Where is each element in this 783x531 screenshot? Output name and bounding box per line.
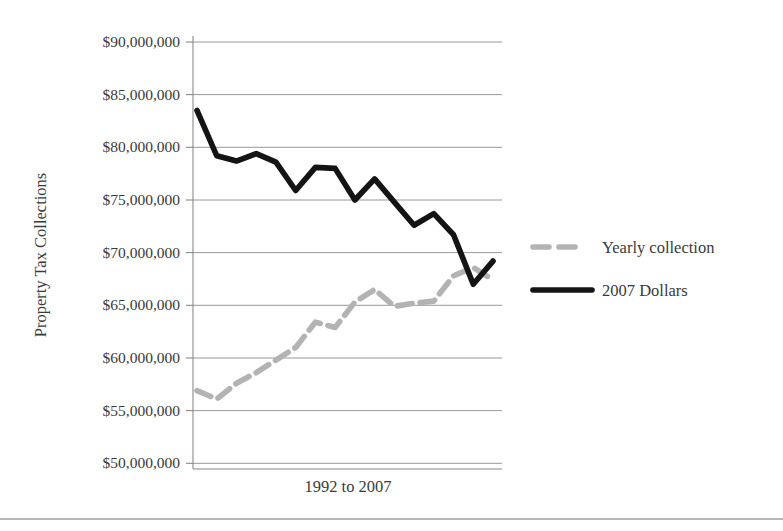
y-tick-label: $55,000,000 — [103, 402, 181, 419]
y-tick-label: $80,000,000 — [103, 138, 181, 155]
y-tick-label: $60,000,000 — [103, 349, 181, 366]
y-tick-label: $75,000,000 — [103, 191, 181, 208]
y-axis-title: Property Tax Collections — [31, 173, 50, 337]
y-tick-label: $50,000,000 — [103, 454, 181, 471]
y-axis-tick-labels: $90,000,000 $85,000,000 $80,000,000 $75,… — [103, 33, 181, 471]
y-tick-label: $90,000,000 — [103, 33, 181, 50]
chart-background — [0, 0, 783, 531]
y-tick-label: $85,000,000 — [103, 86, 181, 103]
legend-label-yearly-collection: Yearly collection — [602, 238, 714, 257]
legend-label-2007-dollars: 2007 Dollars — [602, 281, 688, 300]
x-axis-title: 1992 to 2007 — [304, 477, 391, 496]
property-tax-collections-line-chart: $90,000,000 $85,000,000 $80,000,000 $75,… — [0, 0, 783, 531]
chart-figure: $90,000,000 $85,000,000 $80,000,000 $75,… — [0, 0, 783, 531]
y-tick-label: $65,000,000 — [103, 296, 181, 313]
y-tick-label: $70,000,000 — [103, 244, 181, 261]
